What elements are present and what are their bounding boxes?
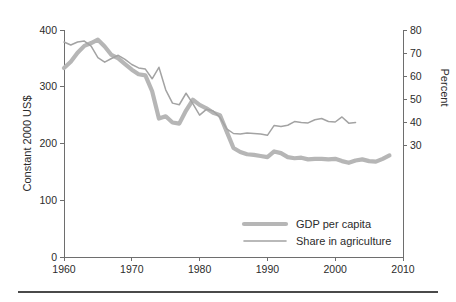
y-axis-tick-label: 200 bbox=[39, 137, 57, 149]
legend-label-gdp-per-capita: GDP per capita bbox=[296, 218, 372, 230]
y2-axis-title: Percent bbox=[439, 69, 451, 107]
y2-axis-tick-label: 80 bbox=[410, 24, 422, 36]
x-axis-tick-label: 2000 bbox=[324, 263, 348, 275]
x-axis-tick-label: 2010 bbox=[391, 263, 415, 275]
chart-figure: 0100200300400Constant 2000 US$ 304050607… bbox=[0, 0, 456, 302]
y-axis-tick-label: 300 bbox=[39, 80, 57, 92]
y2-axis-tick-label: 60 bbox=[410, 70, 422, 82]
right-axis: 304050607080Percent bbox=[403, 24, 451, 257]
x-axis-tick-label: 1980 bbox=[188, 263, 212, 275]
x-axis-tick-label: 1990 bbox=[256, 263, 280, 275]
chart-legend: GDP per capitaShare in agriculture bbox=[244, 218, 391, 247]
series-lines bbox=[64, 40, 389, 163]
bottom-axis: 196019701980199020002010 bbox=[52, 257, 415, 275]
series-line-share-in-agriculture bbox=[64, 41, 356, 135]
x-axis-tick-label: 1960 bbox=[52, 263, 76, 275]
y2-axis-tick-label: 50 bbox=[410, 93, 422, 105]
y-axis-tick-label: 400 bbox=[39, 24, 57, 36]
y-axis-tick-label: 100 bbox=[39, 194, 57, 206]
y2-axis-tick-label: 30 bbox=[410, 139, 422, 151]
left-axis: 0100200300400Constant 2000 US$ bbox=[21, 24, 64, 263]
y2-axis-tick-label: 40 bbox=[410, 116, 422, 128]
y-axis-title: Constant 2000 US$ bbox=[21, 95, 33, 191]
legend-label-share-in-agriculture: Share in agriculture bbox=[296, 235, 391, 247]
y2-axis-tick-label: 70 bbox=[410, 47, 422, 59]
x-axis-tick-label: 1970 bbox=[120, 263, 144, 275]
chart-canvas: 0100200300400Constant 2000 US$ 304050607… bbox=[0, 0, 456, 302]
y-axis-tick-label: 0 bbox=[51, 251, 57, 263]
